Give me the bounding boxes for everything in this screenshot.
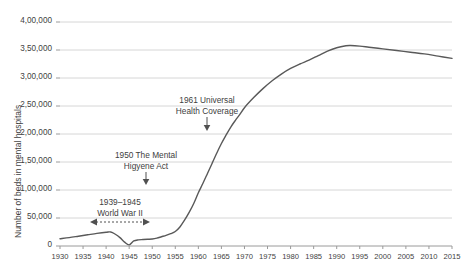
annotation-wwii-line1: 1939–1945: [70, 197, 170, 208]
annotation-universal-health-coverage: 1961 Universal Health Coverage: [157, 95, 257, 116]
mha-arrow-icon: [143, 172, 150, 185]
annotation-mental-higyene-act: 1950 The Mental Higyene Act: [96, 150, 196, 171]
annotation-world-war-two: 1939–1945 World War II: [70, 197, 170, 218]
annotation-mha-line1: 1950 The Mental: [96, 150, 196, 161]
uhc-arrow-icon: [204, 117, 211, 131]
annotation-uhc-line1: 1961 Universal: [157, 95, 257, 106]
gridlines: [60, 22, 452, 218]
annotation-uhc-line2: Health Coverage: [157, 106, 257, 117]
annotation-wwii-line2: World War II: [70, 208, 170, 219]
wwii-double-arrow-icon: [90, 219, 150, 226]
y-axis-tick-marks: [56, 22, 60, 246]
annotation-mha-line2: Higyene Act: [96, 161, 196, 172]
